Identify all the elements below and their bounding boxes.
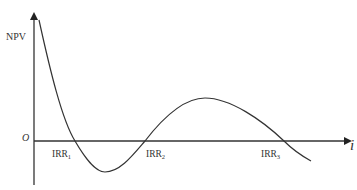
irr2-label: IRR2 (146, 149, 165, 160)
irr3-label: IRR3 (261, 149, 280, 160)
y-axis-label: NPV (6, 31, 27, 42)
origin-label: O (22, 132, 29, 143)
x-axis-label: i (350, 137, 354, 153)
irr1-label: IRR1 (52, 149, 71, 160)
npv-diagram: NPV O i IRR1 IRR2 IRR3 (0, 0, 357, 190)
